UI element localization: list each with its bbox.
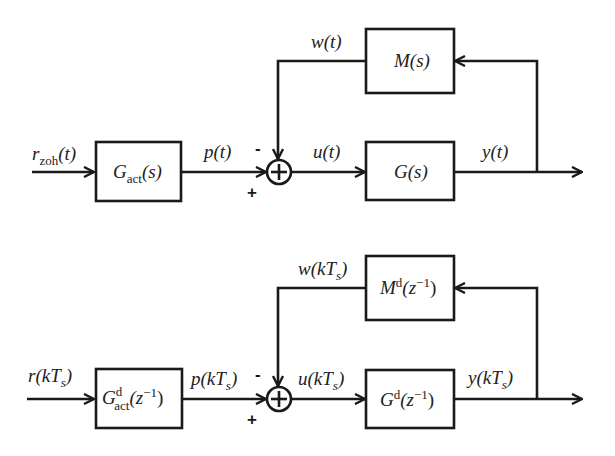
output-signal-label: y(t) [480,141,508,163]
minus-sign: - [255,365,261,384]
feedback-signal-label: w(kTs) [298,258,347,283]
continuous-diagram: rzoh(t) Gact(s) p(t) - + w(t) M(s) [32,29,582,202]
plus-sign: + [247,183,257,202]
summing-junction [267,160,291,184]
input-signal-label: r(kTs) [28,365,72,390]
block-diagrams: rzoh(t) Gact(s) p(t) - + w(t) M(s) [0,0,615,456]
plus-sign: + [247,410,257,429]
summing-junction [267,387,291,411]
plant-block-label: G(s) [394,161,428,183]
feedback-signal-label: w(t) [311,31,342,53]
actuator-output-label: p(kTs) [189,368,237,393]
discrete-diagram: r(kTs) Gdact(z−1) p(kTs) - + w(kTs) Md(z… [27,256,582,429]
input-signal-label: rzoh(t) [32,143,76,168]
actuator-output-label: p(t) [202,141,231,163]
plant-input-label: u(t) [313,141,340,163]
output-signal-label: y(kTs) [466,367,513,392]
plant-input-label: u(kTs) [298,368,344,393]
minus-sign: - [255,139,261,158]
feedback-block-label: M(s) [393,50,430,72]
